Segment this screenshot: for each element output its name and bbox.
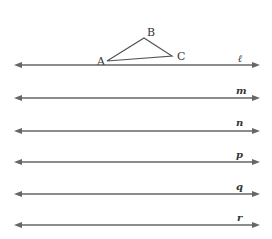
vertex-label-b: B	[147, 26, 155, 39]
line-label-r: r	[237, 212, 243, 223]
line-label-q: q	[236, 181, 243, 192]
vertex-label-a: A	[96, 55, 106, 68]
line-label-n: n	[236, 117, 243, 128]
line-p: p	[14, 149, 260, 165]
parallel-lines-diagram: A B C ℓ m n p q r	[0, 0, 272, 239]
line-n: n	[14, 117, 260, 134]
line-r: r	[14, 212, 260, 228]
line-m: m	[14, 85, 260, 101]
line-q: q	[14, 181, 260, 197]
line-l: ℓ	[14, 53, 260, 68]
line-label-l: ℓ	[238, 53, 242, 64]
line-label-p: p	[236, 149, 243, 160]
triangle-abc: A B C	[96, 26, 185, 68]
vertex-label-c: C	[177, 50, 185, 63]
line-label-m: m	[236, 85, 247, 96]
